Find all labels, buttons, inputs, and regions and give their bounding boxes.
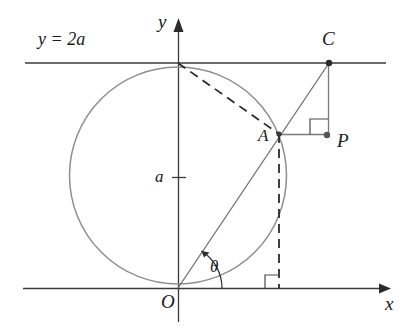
point-p-label: P [337, 131, 349, 150]
y-axis-label: y [158, 12, 166, 31]
point-marker-a [276, 131, 281, 136]
point-marker-p [324, 132, 330, 138]
point-a-label: A [258, 127, 268, 144]
theta-angle-label: θ [210, 258, 218, 275]
x-axis-arrowhead [379, 284, 391, 294]
origin-label: O [161, 292, 175, 311]
line-equation-label: y = 2a [38, 30, 85, 48]
x-axis-label: x [385, 294, 393, 313]
figure-canvas [0, 0, 407, 328]
geometry-figure: y = 2a y x O a A C P θ [0, 0, 407, 328]
a-value-label: a [155, 168, 164, 185]
dashed-chord-top-to-a [178, 63, 279, 134]
right-angle-marker-p [310, 119, 328, 135]
point-marker-c [326, 60, 332, 66]
right-angle-marker-x-axis [265, 275, 278, 288]
y-axis-arrowhead [174, 18, 184, 32]
point-c-label: C [322, 29, 335, 48]
